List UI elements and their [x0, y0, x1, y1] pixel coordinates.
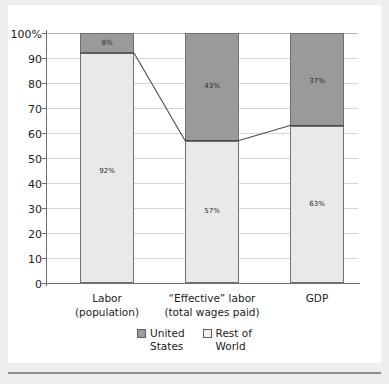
data-label-row-labor: 92%	[80, 168, 134, 175]
bar-effective-labor	[185, 33, 239, 283]
ytick-label: 50	[28, 154, 42, 165]
ytick-label: 70	[28, 104, 42, 115]
ytick-mark	[42, 258, 46, 259]
ytick-label: 0	[35, 279, 42, 290]
data-label-us-labor: 8%	[80, 40, 134, 47]
ytick-label: 100%	[11, 29, 42, 40]
data-label-us-effective: 43%	[185, 83, 239, 90]
category-label-effective-labor: “Effective” labor (total wages paid)	[142, 291, 282, 319]
ytick-mark	[42, 233, 46, 234]
ytick-mark	[42, 58, 46, 59]
data-label-row-gdp: 63%	[290, 201, 344, 208]
legend-swatch-icon	[137, 329, 146, 338]
legend-item-united-states: United States	[137, 327, 185, 353]
ytick-mark	[42, 183, 46, 184]
ytick-label: 90	[28, 54, 42, 65]
ytick-mark	[42, 33, 46, 34]
bar-gdp	[290, 33, 344, 283]
ytick-mark	[42, 158, 46, 159]
bottom-rule	[8, 372, 381, 374]
category-line: (total wages paid)	[142, 305, 282, 319]
ytick-label: 80	[28, 79, 42, 90]
ytick-label: 30	[28, 204, 42, 215]
y-axis-line	[46, 30, 47, 286]
ytick-mark	[42, 133, 46, 134]
ytick-mark	[42, 108, 46, 109]
category-label-gdp: GDP	[267, 291, 367, 305]
category-line: GDP	[267, 291, 367, 305]
ytick-mark	[42, 208, 46, 209]
data-label-row-effective: 57%	[185, 208, 239, 215]
data-label-us-gdp: 37%	[290, 78, 344, 85]
legend-swatch-icon	[203, 329, 212, 338]
ytick-label: 10	[28, 254, 42, 265]
x-axis-line	[44, 283, 360, 284]
chart-figure: 100% 90 80 70 60 50 40 30 20 10 0 8% 92%…	[0, 0, 389, 384]
plot-area	[46, 33, 358, 283]
legend-item-rest-of-world: Rest of World	[203, 327, 252, 353]
ytick-label: 20	[28, 229, 42, 240]
category-line: “Effective” labor	[142, 291, 282, 305]
ytick-label: 40	[28, 179, 42, 190]
ytick-mark	[42, 83, 46, 84]
chart-legend: United States Rest of World	[0, 327, 389, 353]
ytick-label: 60	[28, 129, 42, 140]
ytick-mark	[42, 283, 46, 284]
legend-label: Rest of World	[216, 327, 252, 353]
legend-label: United States	[150, 327, 185, 353]
bar-labor-population	[80, 33, 134, 283]
